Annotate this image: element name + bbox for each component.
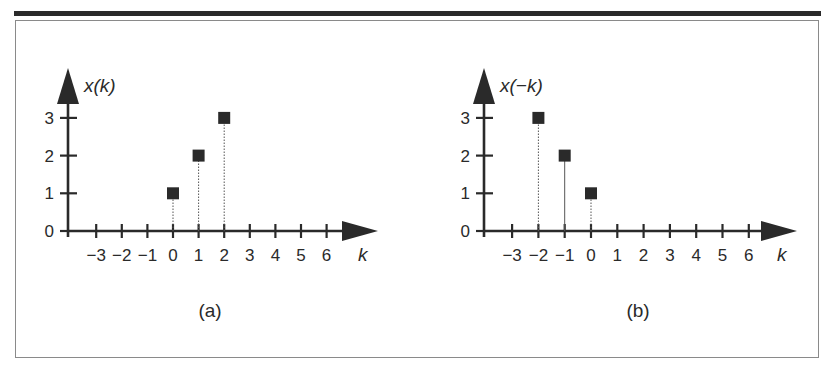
x-tick-label: 5 [718,246,727,265]
data-point-marker [559,150,571,162]
x-tick-label: 1 [613,246,622,265]
y-tick-label: 1 [45,184,54,203]
x-tick-label: 0 [168,246,177,265]
x-tick-label: −1 [555,246,574,265]
y-axis-label: x(−k) [499,75,543,96]
figure-canvas: −3−2−101234560123x(k)k(a) −3−2−101234560… [0,0,834,373]
x-axis-label: k [358,244,369,265]
x-tick-label: 4 [271,246,280,265]
panel-caption: (a) [198,300,221,321]
x-tick-label: 3 [665,246,674,265]
y-tick-label: 3 [45,109,54,128]
y-axis-arrow-icon [473,68,495,104]
y-tick-label: 3 [461,109,470,128]
x-tick-label: −2 [112,246,131,265]
y-axis-label: x(k) [83,75,116,96]
y-axis-arrow-icon [57,68,79,104]
data-point-marker [532,112,544,124]
x-tick-label: −3 [87,246,106,265]
x-tick-label: 4 [691,246,700,265]
panel-b: −3−2−101234560123x(−k)k(b) [461,68,797,321]
x-tick-label: 0 [586,246,595,265]
x-axis-arrow-icon [761,221,797,241]
x-tick-label: 5 [296,246,305,265]
y-tick-label: 2 [461,147,470,166]
data-point-marker [167,187,179,199]
panel-caption: (b) [626,300,649,321]
panel-a: −3−2−101234560123x(k)k(a) [45,68,378,321]
x-tick-label: 3 [245,246,254,265]
data-point-marker [218,112,230,124]
y-tick-label: 2 [45,147,54,166]
y-tick-label: 1 [461,184,470,203]
x-tick-label: 6 [744,246,753,265]
data-point-marker [193,150,205,162]
x-axis-label: k [777,244,788,265]
x-axis-arrow-icon [342,221,378,241]
x-tick-label: −2 [529,246,548,265]
data-point-marker [585,187,597,199]
y-tick-label: 0 [45,222,54,241]
x-tick-label: 2 [639,246,648,265]
x-tick-label: −3 [502,246,521,265]
x-tick-label: 2 [219,246,228,265]
x-tick-label: 6 [322,246,331,265]
x-tick-label: −1 [138,246,157,265]
x-tick-label: 1 [194,246,203,265]
y-tick-label: 0 [461,222,470,241]
